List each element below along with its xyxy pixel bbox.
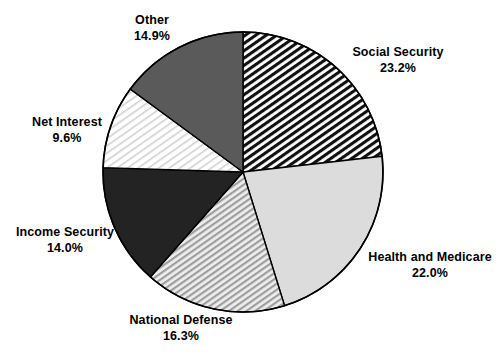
slice-label-percent: 14.9% <box>104 28 200 44</box>
slice-label-income-security: Income Security 14.0% <box>2 224 128 256</box>
pie-chart: Social Security 23.2% Health and Medicar… <box>0 0 502 363</box>
slice-label-name: Net Interest <box>14 114 120 130</box>
slice-label-percent: 14.0% <box>2 240 128 256</box>
slice-label-name: Income Security <box>2 224 128 240</box>
slice-label-social-security: Social Security 23.2% <box>330 44 466 76</box>
slice-label-percent: 23.2% <box>330 60 466 76</box>
slice-label-name: Other <box>104 12 200 28</box>
slice-label-percent: 22.0% <box>358 265 502 281</box>
slice-label-other: Other 14.9% <box>104 12 200 44</box>
slice-label-name: Social Security <box>330 44 466 60</box>
slice-label-national-defense: National Defense 16.3% <box>104 312 258 344</box>
slice-label-name: Health and Medicare <box>358 249 502 265</box>
slice-label-percent: 16.3% <box>104 328 258 344</box>
slice-label-name: National Defense <box>104 312 258 328</box>
slice-label-percent: 9.6% <box>14 130 120 146</box>
slice-label-health-and-medicare: Health and Medicare 22.0% <box>358 249 502 281</box>
slice-label-net-interest: Net Interest 9.6% <box>14 114 120 146</box>
